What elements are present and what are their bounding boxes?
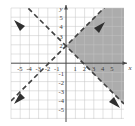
- y-axis-label: y: [59, 5, 64, 13]
- x-tick-neg3: -3: [36, 65, 41, 72]
- y-tick-5: 5: [60, 14, 63, 21]
- y-tick-4: 4: [60, 23, 64, 30]
- y-tick-neg1: -1: [59, 70, 64, 77]
- y-tick-neg4: -4: [59, 97, 65, 104]
- y-tick-neg5: -5: [59, 106, 64, 113]
- y-tick-3: 3: [60, 33, 63, 40]
- graph-canvas: y x -5 -4 -3 -2 -1 1 2 3 4 5 5 4 3 2 -1 …: [0, 0, 135, 126]
- arrowhead-up-left: [14, 20, 25, 31]
- y-tick-2: 2: [60, 42, 63, 49]
- y-tick-neg2: -2: [59, 79, 64, 86]
- x-axis-label: x: [128, 64, 133, 72]
- x-tick-1: 1: [74, 65, 77, 72]
- arrowhead-down-left: [14, 93, 25, 104]
- x-tick-3: 3: [92, 65, 95, 72]
- x-tick-2: 2: [83, 65, 86, 72]
- x-tick-neg4: -4: [26, 65, 32, 72]
- y-tick-neg3: -3: [59, 88, 64, 95]
- x-tick-5: 5: [110, 65, 113, 72]
- coordinate-plane-figure: y x -5 -4 -3 -2 -1 1 2 3 4 5 5 4 3 2 -1 …: [0, 0, 135, 126]
- x-tick-neg5: -5: [17, 65, 22, 72]
